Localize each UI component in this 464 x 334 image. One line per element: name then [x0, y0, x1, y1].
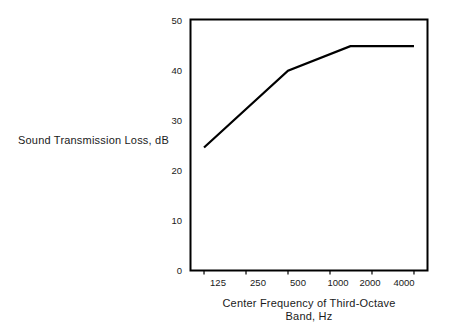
plot-frame: [191, 20, 428, 271]
x-tick-label-2000: 2000: [359, 277, 380, 288]
y-tick-label-40: 40: [160, 65, 182, 76]
x-tick-label-250: 250: [250, 277, 266, 288]
chart-figure: Sound Transmission Loss, dB 0 10 20 30 4…: [0, 0, 464, 334]
y-tick-label-50: 50: [160, 15, 182, 26]
x-axis-title-line2: Band, Hz: [190, 310, 428, 323]
x-tick-label-125: 125: [210, 277, 226, 288]
x-axis-title-line1: Center Frequency of Third-Octave: [190, 297, 428, 310]
y-axis-title: Sound Transmission Loss, dB: [18, 134, 169, 146]
y-tick-label-20: 20: [160, 165, 182, 176]
y-tick-label-0: 0: [160, 265, 182, 276]
x-axis-title: Center Frequency of Third-Octave Band, H…: [190, 297, 428, 323]
x-tick-label-4000: 4000: [393, 277, 414, 288]
x-tick-label-1000: 1000: [327, 277, 348, 288]
data-series-line: [204, 46, 414, 147]
x-tick-label-500: 500: [290, 277, 306, 288]
y-tick-label-30: 30: [160, 115, 182, 126]
y-tick-label-10: 10: [160, 215, 182, 226]
